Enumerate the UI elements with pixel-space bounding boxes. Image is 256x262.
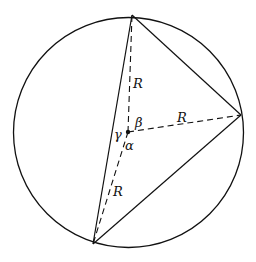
label-radius-bottom: R bbox=[112, 184, 123, 199]
center-point bbox=[126, 130, 130, 134]
triangle-side-bottom-top bbox=[93, 15, 132, 244]
triangle-side-top-right bbox=[132, 15, 241, 115]
label-radius-right: R bbox=[176, 110, 187, 125]
circumcircle-diagram: R R R β γ α bbox=[0, 0, 256, 262]
label-angle-gamma: γ bbox=[114, 127, 122, 142]
label-radius-top: R bbox=[132, 76, 143, 91]
label-angle-beta: β bbox=[134, 115, 143, 130]
label-angle-alpha: α bbox=[125, 138, 134, 153]
